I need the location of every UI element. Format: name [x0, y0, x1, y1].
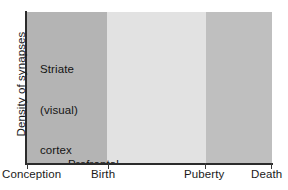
annotation-striate-line-2: (visual): [40, 104, 78, 118]
x-label-conception: Conception: [2, 168, 61, 180]
band-birth-to-puberty: [107, 12, 205, 163]
band-puberty-to-death: [206, 12, 272, 163]
annotation-striate-line-1: Striate: [40, 63, 78, 77]
x-label-death: Death: [251, 168, 282, 180]
x-label-birth: Birth: [91, 168, 115, 180]
y-axis-title: Density of synapses: [15, 14, 27, 154]
annotation-prefrontal-cortex: Prefrontal cortex: [68, 131, 119, 163]
x-axis-line: [25, 163, 273, 165]
x-label-puberty: Puberty: [184, 168, 224, 180]
synapse-density-chart: Striate (visual) cortex Prefrontal corte…: [0, 0, 288, 190]
plot-area: Striate (visual) cortex Prefrontal corte…: [26, 12, 272, 163]
